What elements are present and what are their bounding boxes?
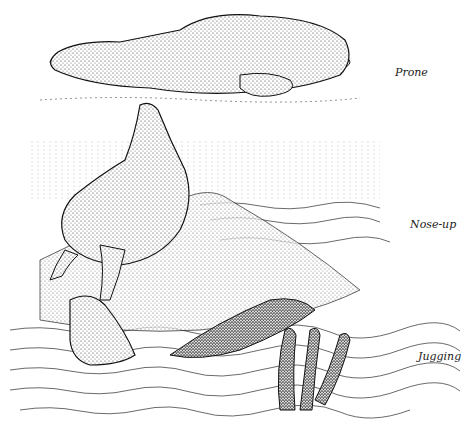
hind-flippers [278, 328, 350, 410]
label-jugging: Jugging [418, 350, 461, 363]
illustration: Prone Nose-up Jugging [0, 0, 472, 429]
label-nose-up: Nose-up [410, 218, 456, 231]
label-prone: Prone [395, 66, 428, 79]
sea-lion-illustration [0, 0, 472, 429]
prone-sea-lion [40, 15, 360, 102]
